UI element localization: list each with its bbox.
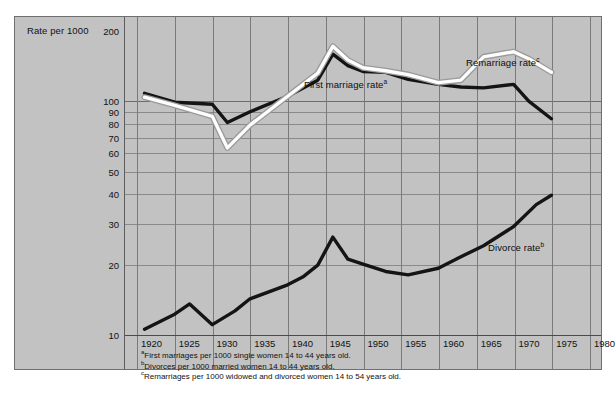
footnote-b: bDivorces per 1000 married women 14 to 4… (141, 362, 441, 373)
y-tick-80: 80 (108, 119, 119, 128)
footnote-c: cRemarriages per 1000 widowed and divorc… (141, 372, 441, 383)
footnote-marker-c: c (536, 56, 539, 63)
annotation-divorce-rate: Divorce rateb (488, 242, 544, 253)
footnote-marker-b: b (141, 360, 144, 366)
footnote-marker-a: a (384, 78, 388, 85)
series-line-divorce-rate (145, 195, 552, 329)
y-tick-70: 70 (108, 133, 119, 142)
plot-area: 1920192519301935194019451950195519601965… (125, 17, 601, 369)
y-axis-title: Rate per 1000 (27, 25, 89, 36)
footnote-marker-c: c (141, 370, 144, 376)
footnote-marker-a: a (141, 349, 144, 355)
y-tick-100: 100 (103, 97, 119, 106)
chart-plate: Rate per 1000 200100908070605040302010 1… (14, 16, 602, 370)
y-tick-90: 90 (108, 108, 119, 117)
y-tick-50: 50 (108, 167, 119, 176)
annotation-remarriage-rate: Remarriage ratec (466, 57, 540, 68)
chart-page: Rate per 1000 200100908070605040302010 1… (0, 0, 615, 393)
annotation-first-marriage-rate: First marriage ratea (304, 79, 387, 90)
y-tick-200: 200 (103, 27, 119, 36)
y-axis-label-column: Rate per 1000 200100908070605040302010 (15, 17, 125, 369)
y-tick-10: 10 (108, 331, 119, 340)
footnote-marker-b: b (540, 241, 544, 248)
series-lines (125, 17, 601, 368)
y-tick-20: 20 (108, 260, 119, 269)
y-tick-40: 40 (108, 190, 119, 199)
y-tick-60: 60 (108, 149, 119, 158)
footnote-block: aFirst marriages per 1000 single women 1… (141, 351, 441, 383)
y-tick-30: 30 (108, 219, 119, 228)
footnote-a: aFirst marriages per 1000 single women 1… (141, 351, 441, 362)
